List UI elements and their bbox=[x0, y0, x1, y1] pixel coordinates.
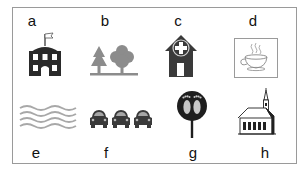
cars-icon bbox=[89, 107, 155, 129]
label-a: a bbox=[22, 13, 42, 29]
label-g: g bbox=[183, 145, 203, 161]
label-h: h bbox=[255, 145, 275, 161]
hospital-house-icon bbox=[163, 33, 199, 79]
church-icon bbox=[236, 88, 280, 138]
label-e: e bbox=[26, 145, 46, 161]
label-d: d bbox=[243, 13, 263, 29]
label-b: b bbox=[95, 13, 115, 29]
label-c: c bbox=[168, 13, 188, 29]
school-building-icon bbox=[26, 30, 64, 78]
footprints-sign-icon bbox=[175, 90, 209, 140]
label-f: f bbox=[96, 145, 116, 161]
water-waves-icon bbox=[18, 103, 80, 133]
trees-icon bbox=[89, 42, 141, 78]
coffee-cup-icon bbox=[234, 38, 278, 78]
